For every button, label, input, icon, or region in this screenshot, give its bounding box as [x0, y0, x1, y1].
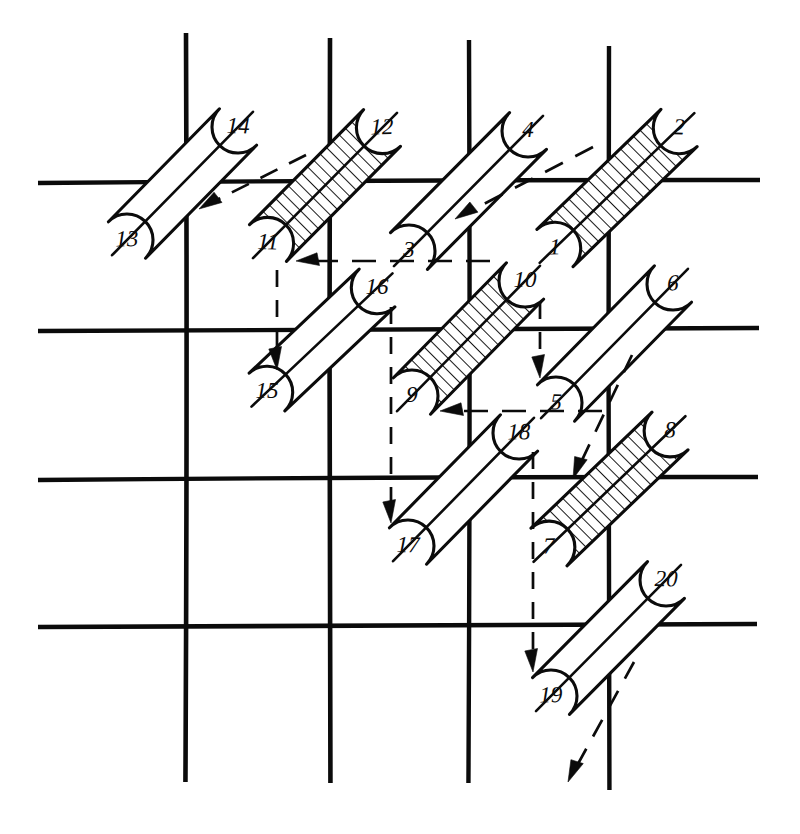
tile-number-label: 3: [402, 237, 415, 262]
tile-number-label: 10: [514, 267, 538, 292]
tile-number-label: 6: [667, 270, 679, 295]
tile-number-label: 14: [226, 113, 249, 138]
tile-number-label: 20: [654, 566, 678, 591]
tile-number-label: 4: [522, 117, 534, 142]
tile-number-label: 15: [256, 378, 279, 403]
tile-number-label: 9: [406, 382, 418, 407]
tile-number-label: 16: [366, 274, 390, 299]
figure-root: 1234567891011121314151617181920: [0, 0, 800, 834]
tile-number-label: 1: [549, 234, 561, 259]
tile-number-label: 19: [539, 682, 563, 707]
tile-number-label: 2: [673, 114, 685, 139]
tile-number-label: 17: [396, 532, 421, 557]
tile-number-label: 11: [257, 229, 279, 254]
tile-number-label: 18: [507, 419, 531, 444]
tile-number-label: 12: [370, 114, 393, 139]
tile-number-label: 7: [543, 533, 556, 558]
tile-number-label: 8: [664, 417, 676, 442]
domino-grid-diagram: 1234567891011121314151617181920: [0, 0, 800, 834]
tile-number-label: 13: [115, 226, 138, 251]
